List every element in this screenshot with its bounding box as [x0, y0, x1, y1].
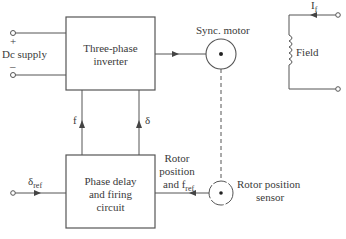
- rotor-position-sensor: Rotor position sensor: [209, 178, 301, 205]
- svg-text:Rotor: Rotor: [164, 152, 189, 164]
- sync-motor: Sync. motor: [180, 24, 250, 69]
- plus-sign: +: [10, 35, 16, 47]
- rotor-position-feedback: Rotor position and fref: [155, 152, 209, 196]
- svg-text:δ: δ: [145, 114, 150, 126]
- svg-text:and fref: and fref: [163, 178, 195, 193]
- delta-signal: δ: [136, 90, 150, 155]
- field-label: Field: [296, 46, 319, 58]
- minus-sign: –: [9, 60, 16, 72]
- f-signal: f: [73, 90, 85, 155]
- delta-ref-input: δref: [11, 175, 66, 196]
- firing-circuit-block: Phase delay and firing circuit: [66, 155, 155, 228]
- svg-text:and firing: and firing: [89, 188, 133, 200]
- sync-motor-label: Sync. motor: [196, 24, 250, 36]
- svg-text:inverter: inverter: [93, 55, 128, 67]
- field-current-label: If: [311, 0, 318, 14]
- svg-text:f: f: [73, 114, 77, 126]
- svg-text:position: position: [159, 165, 195, 177]
- diagram-canvas: + – Dc supply Three-phase inverter Sync.…: [0, 0, 346, 239]
- inverter-block: Three-phase inverter: [66, 17, 155, 90]
- delta-ref-label: δref: [28, 175, 42, 190]
- svg-text:sensor: sensor: [256, 191, 284, 203]
- dc-supply-label: Dc supply: [2, 48, 47, 60]
- arrow-icon: [172, 51, 179, 57]
- svg-text:Rotor position: Rotor position: [237, 178, 301, 190]
- field-winding: If Field: [289, 0, 340, 91]
- svg-text:Three-phase: Three-phase: [83, 42, 137, 54]
- svg-text:Phase delay: Phase delay: [84, 175, 137, 187]
- dc-supply: + – Dc supply: [2, 31, 66, 78]
- svg-text:circuit: circuit: [96, 201, 124, 213]
